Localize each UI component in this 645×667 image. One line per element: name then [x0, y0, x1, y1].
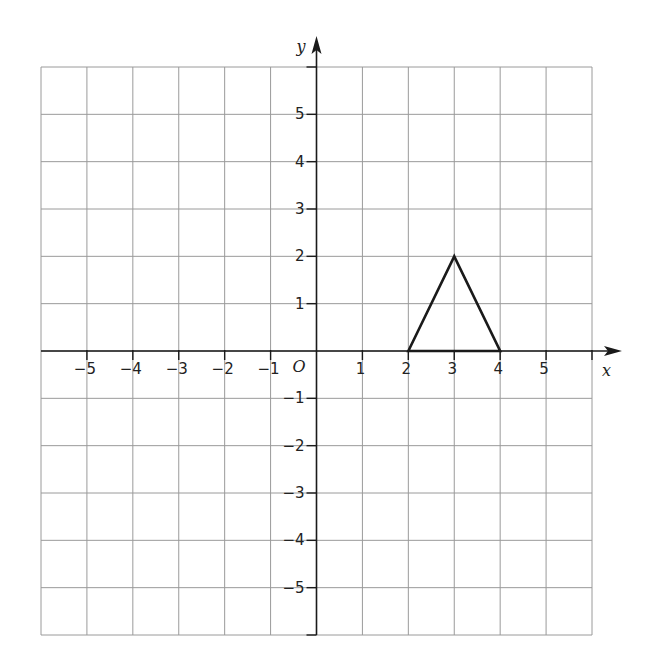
x-tick-label: 1	[356, 360, 366, 378]
y-tick-label: −4	[282, 531, 304, 549]
x-tick-label: −3	[166, 360, 188, 378]
y-tick-label: 3	[295, 200, 305, 218]
x-tick-label: −4	[120, 360, 142, 378]
x-tick-label: −2	[212, 360, 234, 378]
origin-label: O	[293, 357, 306, 376]
y-tick-label: 1	[295, 295, 305, 313]
y-axis-label: y	[296, 37, 307, 56]
axes	[41, 36, 622, 635]
y-tick-label: −2	[282, 437, 304, 455]
y-tick-label: −1	[282, 389, 304, 407]
x-tick-label: 3	[447, 360, 457, 378]
x-tick-label: −1	[258, 360, 280, 378]
y-tick-label: −5	[282, 579, 304, 597]
y-tick-label: 2	[295, 247, 305, 265]
y-tick-label: 4	[295, 153, 305, 171]
x-tick-label: −5	[74, 360, 96, 378]
x-tick-label: 5	[539, 360, 549, 378]
x-tick-label: 4	[493, 360, 503, 378]
x-tick-label: 2	[402, 360, 412, 378]
x-axis-label: x	[602, 361, 611, 380]
y-tick-label: −3	[282, 484, 304, 502]
coordinate-grid: −5−4−3−2−11234554321−1−2−3−4−5 x y O	[0, 0, 645, 667]
y-tick-label: 5	[295, 105, 305, 123]
